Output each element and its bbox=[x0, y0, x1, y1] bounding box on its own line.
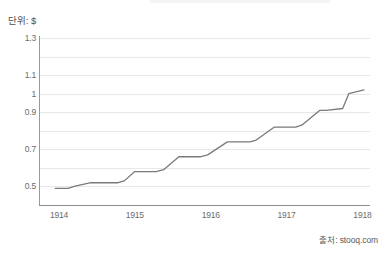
cropped-title-sliver bbox=[150, 0, 330, 3]
y-axis-tick-labels: 0.50.70.911.11.3 bbox=[0, 38, 36, 205]
y-tick-label-0.5: 0.5 bbox=[2, 181, 36, 191]
x-tick-label-1915: 1915 bbox=[126, 210, 144, 220]
x-tick-label-1918: 1918 bbox=[353, 210, 371, 220]
series-line-price bbox=[40, 38, 370, 205]
x-axis-tick-labels: 19141915191619171918 bbox=[40, 210, 370, 224]
x-tick-label-1914: 1914 bbox=[50, 210, 68, 220]
chart-container: 단위: $ 0.50.70.911.11.3 19141915191619171… bbox=[0, 0, 386, 255]
y-tick-label-0.7: 0.7 bbox=[2, 144, 36, 154]
y-tick-label-1.1: 1.1 bbox=[2, 70, 36, 80]
plot-area bbox=[40, 38, 370, 205]
source-attribution: 출처: stooq.com bbox=[319, 233, 378, 245]
x-axis-line bbox=[39, 205, 370, 206]
x-tick-label-1917: 1917 bbox=[277, 210, 295, 220]
price-line-path bbox=[55, 90, 364, 188]
x-tick-label-1916: 1916 bbox=[202, 210, 220, 220]
y-tick-label-0.9: 0.9 bbox=[2, 107, 36, 117]
y-tick-label-1.3: 1.3 bbox=[2, 33, 36, 43]
y-tick-label-1: 1 bbox=[2, 89, 36, 99]
unit-label: 단위: $ bbox=[8, 13, 36, 27]
